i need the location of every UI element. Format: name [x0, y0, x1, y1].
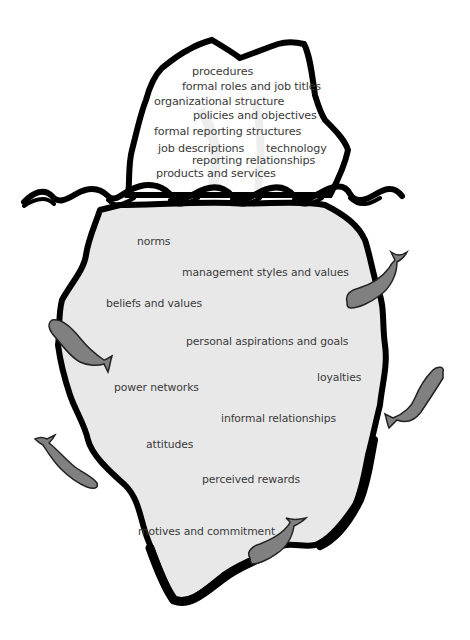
label-formal-reporting: formal reporting structures [154, 126, 301, 137]
label-motives-commitment: motives and commitment [138, 527, 275, 538]
label-power-networks: power networks [114, 383, 199, 394]
label-norms: norms [137, 237, 170, 248]
whale-icon [385, 367, 443, 428]
label-formal-roles: formal roles and job titles [182, 81, 321, 92]
label-beliefs-values: beliefs and values [106, 299, 202, 310]
label-informal-relationships: informal relationships [221, 414, 336, 425]
label-job-descriptions: job descriptions [158, 143, 244, 154]
label-loyalties: loyalties [317, 373, 361, 384]
iceberg-below-water [58, 203, 386, 601]
label-reporting-relationships: reporting relationships [192, 155, 315, 166]
label-management-styles: management styles and values [182, 268, 349, 279]
label-technology: technology [266, 143, 327, 154]
label-personal-aspirations: personal aspirations and goals [186, 337, 348, 348]
label-attitudes: attitudes [146, 440, 193, 451]
label-policies: policies and objectives [193, 110, 317, 121]
iceberg-diagram: procedures formal roles and job titles o… [0, 0, 470, 640]
label-procedures: procedures [192, 66, 253, 77]
label-perceived-rewards: perceived rewards [202, 475, 300, 486]
label-org-structure: organizational structure [154, 96, 284, 107]
label-products-services: products and services [156, 168, 276, 179]
